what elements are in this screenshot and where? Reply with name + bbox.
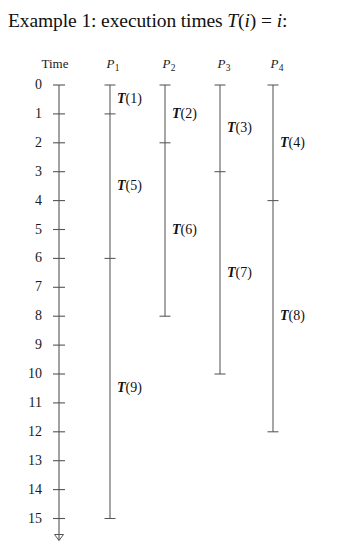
time-tick-label: 13 bbox=[8, 454, 42, 468]
time-tick-label: 9 bbox=[8, 338, 42, 352]
time-tick-label: 3 bbox=[8, 165, 42, 179]
task-label-t7: T(7) bbox=[227, 266, 252, 280]
task-label-t8: T(8) bbox=[280, 309, 305, 323]
time-tick-label: 0 bbox=[8, 78, 42, 92]
task-label-t1: T(1) bbox=[117, 92, 142, 106]
time-tick-label: 2 bbox=[8, 136, 42, 150]
task-label-t9: T(9) bbox=[117, 381, 142, 395]
time-tick-label: 12 bbox=[8, 425, 42, 439]
time-tick-label: 15 bbox=[8, 512, 42, 526]
time-tick-label: 6 bbox=[8, 251, 42, 265]
task-label-t4: T(4) bbox=[280, 136, 305, 150]
task-label-t5: T(5) bbox=[117, 179, 142, 193]
time-tick-label: 11 bbox=[8, 396, 42, 410]
diagram-lines bbox=[0, 0, 354, 551]
execution-time-diagram: Example 1: execution times T(i) = i: Tim… bbox=[0, 0, 354, 551]
task-label-t3: T(3) bbox=[227, 121, 252, 135]
time-tick-label: 5 bbox=[8, 223, 42, 237]
time-tick-label: 10 bbox=[8, 367, 42, 381]
time-tick-label: 7 bbox=[8, 280, 42, 294]
time-tick-label: 1 bbox=[8, 107, 42, 121]
time-tick-label: 8 bbox=[8, 309, 42, 323]
time-tick-label: 14 bbox=[8, 483, 42, 497]
time-tick-label: 4 bbox=[8, 194, 42, 208]
task-label-t2: T(2) bbox=[172, 107, 197, 121]
task-label-t6: T(6) bbox=[172, 223, 197, 237]
